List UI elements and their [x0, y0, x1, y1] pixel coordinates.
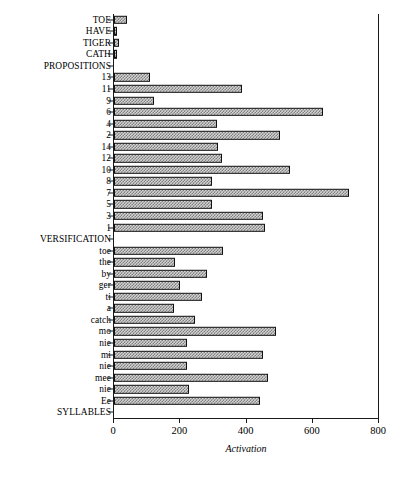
y-axis-tick [108, 400, 113, 401]
bar [114, 293, 202, 301]
bar [114, 177, 212, 185]
bar-row: 9 [0, 95, 402, 107]
bar [114, 258, 175, 266]
y-axis-tick [108, 377, 113, 378]
bar [114, 39, 119, 47]
bar-row: 14 [0, 141, 402, 153]
bar-row: 11 [0, 83, 402, 95]
y-axis-tick [108, 227, 113, 228]
y-axis-tick [108, 262, 113, 263]
y-axis-tick [108, 42, 113, 43]
y-axis-tick [108, 412, 113, 413]
y-axis-tick [108, 192, 113, 193]
y-axis-tick [108, 215, 113, 216]
y-axis-tick [108, 146, 113, 147]
y-axis-tick [108, 273, 113, 274]
bar-rows: TOEHAVETIGERCATHPROPOSITIONS131196421412… [0, 14, 402, 418]
bar-row: 13 [0, 72, 402, 84]
bar-row: nie [0, 360, 402, 372]
bar-row: SYLLABLES [0, 406, 402, 418]
bar [114, 270, 207, 278]
bar [114, 143, 218, 151]
bar-row: nie [0, 383, 402, 395]
y-axis-tick [108, 65, 113, 66]
bar-row: mee [0, 372, 402, 384]
x-axis-tick [378, 418, 379, 423]
bar [114, 96, 154, 104]
y-axis-tick [108, 158, 113, 159]
bar-row: a [0, 303, 402, 315]
x-axis-tick [179, 418, 180, 423]
bar [114, 316, 195, 324]
bar [114, 246, 223, 254]
bar [114, 119, 217, 127]
y-axis-tick [108, 366, 113, 367]
bar [114, 189, 349, 197]
y-axis-tick [108, 100, 113, 101]
bar-row: ger [0, 279, 402, 291]
bar [114, 350, 263, 358]
bar-row: 2 [0, 129, 402, 141]
bar [114, 108, 323, 116]
y-axis-tick [108, 389, 113, 390]
bar-row: PROPOSITIONS [0, 60, 402, 72]
bar [114, 212, 263, 220]
y-axis-tick [108, 135, 113, 136]
bar [114, 223, 265, 231]
y-axis-label: VERSIFICATION [40, 234, 111, 244]
bar [114, 154, 222, 162]
bar-row: nie [0, 337, 402, 349]
bar-row: ti [0, 291, 402, 303]
y-axis-label: TIGER [83, 38, 111, 48]
bar-row: 5 [0, 199, 402, 211]
bar-row: 4 [0, 118, 402, 130]
y-axis-tick [108, 54, 113, 55]
bar-row: mi [0, 349, 402, 361]
x-axis-tick-label: 0 [110, 425, 115, 437]
bar [114, 27, 117, 35]
bar [114, 166, 290, 174]
bar [114, 327, 276, 335]
y-axis-tick [108, 112, 113, 113]
bar [114, 373, 268, 381]
y-axis-tick [108, 250, 113, 251]
y-axis-tick [108, 239, 113, 240]
bar [114, 85, 242, 93]
y-axis-tick [108, 354, 113, 355]
bar-row: the [0, 256, 402, 268]
x-axis-title: Activation [113, 443, 379, 455]
bar-row: 3 [0, 210, 402, 222]
y-axis-tick [108, 319, 113, 320]
bar-row: 6 [0, 106, 402, 118]
bar-row: 12 [0, 153, 402, 165]
x-axis-tick [246, 418, 247, 423]
bar [114, 339, 187, 347]
x-axis-tick [113, 418, 114, 423]
y-axis-label: PROPOSITIONS [44, 61, 111, 71]
bar-row: catch [0, 314, 402, 326]
y-axis-tick [108, 169, 113, 170]
bar [114, 50, 117, 58]
y-axis-tick [108, 308, 113, 309]
x-axis-tick-label: 800 [370, 425, 386, 437]
bar [114, 16, 127, 24]
y-axis-tick [108, 342, 113, 343]
y-axis-tick [108, 19, 113, 20]
bar-row: 1 [0, 222, 402, 234]
bar-row: TOE [0, 14, 402, 26]
bar [114, 200, 212, 208]
bar-row: 7 [0, 187, 402, 199]
y-axis-tick [108, 31, 113, 32]
bar-row: TIGER [0, 37, 402, 49]
y-axis-tick [108, 123, 113, 124]
bar-row: CATH [0, 49, 402, 61]
activation-bar-chart: TOEHAVETIGERCATHPROPOSITIONS131196421412… [0, 0, 402, 482]
bar [114, 385, 189, 393]
bar [114, 281, 180, 289]
y-axis-tick [108, 285, 113, 286]
bar [114, 362, 187, 370]
bar [114, 73, 150, 81]
y-axis-tick [108, 89, 113, 90]
x-axis-tick-label: 600 [304, 425, 320, 437]
bar [114, 131, 280, 139]
